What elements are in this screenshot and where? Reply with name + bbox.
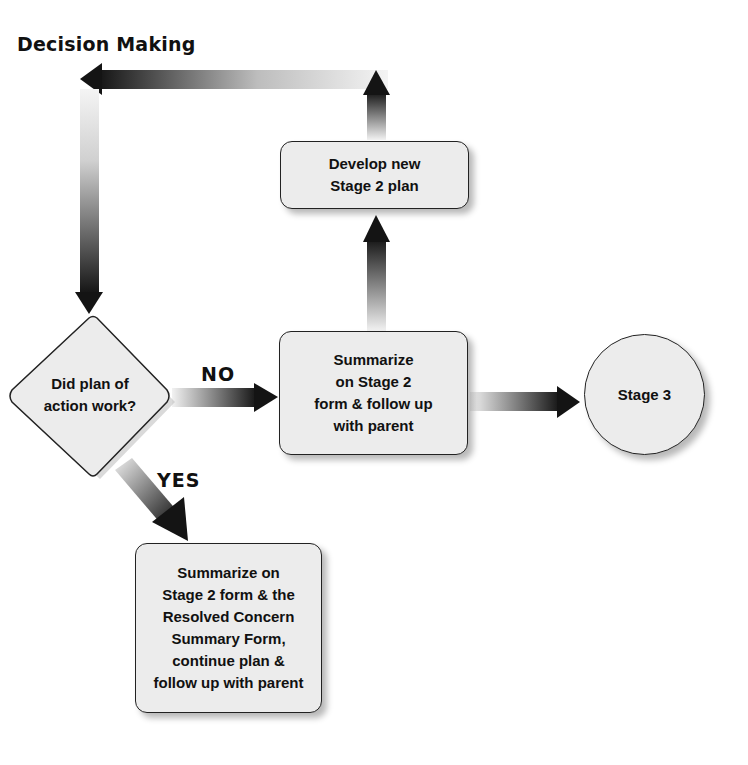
summarize-no-text: Summarize on Stage 2 form & follow up wi… (314, 349, 432, 437)
develop-plan-text: Develop new Stage 2 plan (329, 153, 421, 197)
stage3-text: Stage 3 (618, 384, 671, 406)
yes-label: YES (157, 469, 200, 491)
no-label: NO (201, 363, 235, 385)
stage3-node: Stage 3 (584, 334, 705, 455)
arrow-loop-left (75, 89, 103, 314)
arrow-to-stage3 (470, 386, 580, 418)
summarize-yes-text: Summarize on Stage 2 form & the Resolved… (154, 562, 304, 694)
arrow-summarize-to-develop (363, 215, 390, 331)
summarize-yes-node: Summarize on Stage 2 form & the Resolved… (135, 543, 322, 713)
develop-plan-node: Develop new Stage 2 plan (280, 141, 469, 209)
arrow-loop-top (80, 63, 388, 95)
summarize-no-node: Summarize on Stage 2 form & follow up wi… (279, 331, 468, 455)
decision-text: Did plan of action work? (44, 373, 137, 417)
arrow-no (172, 383, 278, 412)
decision-node: Did plan of action work? (10, 315, 170, 475)
